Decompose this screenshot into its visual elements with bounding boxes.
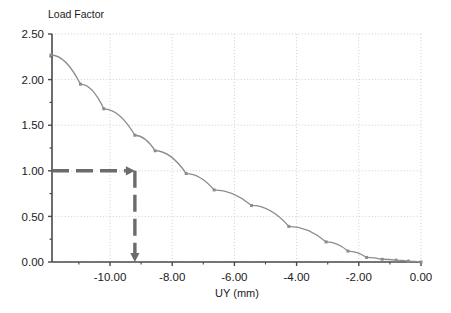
y-tick-label: 1.50	[22, 119, 44, 131]
data-point-marker	[407, 260, 410, 263]
y-tick-label: 0.50	[22, 211, 44, 223]
data-point-marker	[287, 225, 290, 228]
x-tick-label: -10.00	[94, 271, 127, 283]
load-displacement-chart: 0.000.501.001.502.002.50-10.00-8.00-6.00…	[0, 0, 451, 313]
data-point-marker	[325, 240, 328, 243]
data-point-marker	[213, 188, 216, 191]
data-point-marker	[420, 261, 423, 264]
data-point-marker	[79, 83, 82, 86]
y-tick-label: 2.00	[22, 74, 44, 86]
x-tick-label: -8.00	[159, 271, 185, 283]
x-tick-label: 0.00	[410, 271, 432, 283]
x-tick-label: -2.00	[346, 271, 372, 283]
chart-background	[0, 0, 451, 313]
chart-canvas: 0.000.501.001.502.002.50-10.00-8.00-6.00…	[0, 0, 451, 313]
x-tick-label: -6.00	[221, 271, 247, 283]
data-point-marker	[102, 107, 105, 110]
y-tick-label: 0.00	[22, 256, 44, 268]
x-tick-label: -4.00	[283, 271, 309, 283]
data-point-marker	[381, 258, 384, 261]
x-axis-label: UY (mm)	[215, 287, 259, 299]
data-point-marker	[395, 259, 398, 262]
data-point-marker	[133, 134, 136, 137]
data-point-marker	[49, 53, 52, 56]
chart-title: Load Factor	[48, 8, 105, 20]
y-tick-label: 2.50	[22, 28, 44, 40]
data-point-marker	[250, 204, 253, 207]
y-tick-label: 1.00	[22, 165, 44, 177]
data-point-marker	[185, 172, 188, 175]
data-point-marker	[346, 250, 349, 253]
data-point-marker	[365, 256, 368, 259]
data-point-marker	[154, 149, 157, 152]
